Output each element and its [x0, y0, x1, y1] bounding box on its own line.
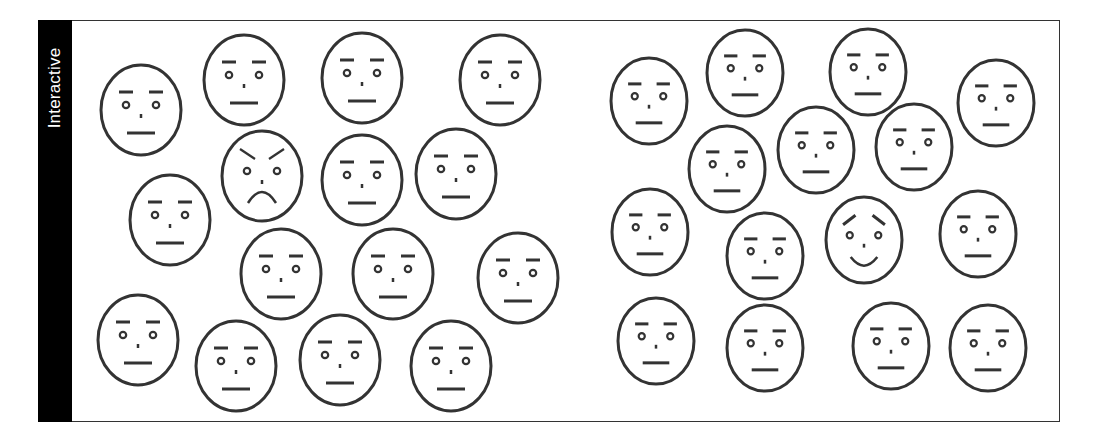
neutral-face-icon: [727, 305, 803, 391]
right-face-group: [611, 29, 1034, 391]
neutral-face-icon: [478, 233, 558, 323]
neutral-face-icon: [727, 213, 803, 299]
neutral-face-icon: [353, 229, 433, 319]
neutral-face-icon: [98, 295, 178, 385]
neutral-face-icon: [612, 189, 688, 275]
neutral-face-icon: [322, 135, 402, 225]
neutral-face-icon: [196, 321, 276, 411]
neutral-face-icon: [876, 104, 952, 190]
neutral-face-icon: [322, 33, 402, 123]
neutral-face-icon: [101, 65, 181, 155]
neutral-face-icon: [940, 191, 1016, 277]
happy-face-icon: [826, 197, 902, 283]
neutral-face-icon: [411, 321, 491, 411]
neutral-face-icon: [611, 58, 687, 144]
left-face-group: [98, 33, 558, 411]
neutral-face-icon: [778, 107, 854, 193]
neutral-face-icon: [958, 60, 1034, 146]
neutral-face-icon: [241, 229, 321, 319]
neutral-face-icon: [460, 35, 540, 125]
neutral-face-icon: [707, 30, 783, 116]
faces-canvas: [0, 0, 1097, 439]
neutral-face-icon: [830, 29, 906, 115]
neutral-face-icon: [950, 305, 1026, 391]
neutral-face-icon: [300, 315, 380, 405]
neutral-face-icon: [853, 303, 929, 389]
angry-face-icon: [222, 131, 302, 221]
neutral-face-icon: [130, 175, 210, 265]
neutral-face-icon: [204, 35, 284, 125]
neutral-face-icon: [618, 298, 694, 384]
neutral-face-icon: [416, 129, 496, 219]
neutral-face-icon: [689, 126, 765, 212]
